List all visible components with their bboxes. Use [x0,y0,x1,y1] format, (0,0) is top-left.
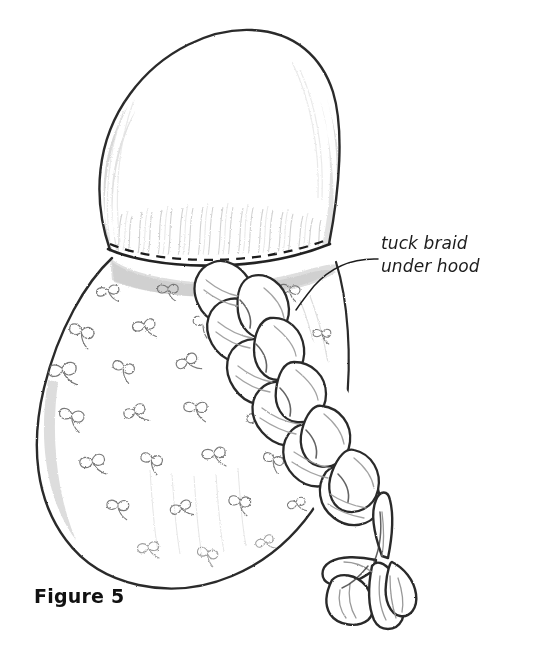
figure-caption: Figure 5 [34,585,124,607]
hood-outline [99,30,339,250]
annotation-line-1: tuck braid [381,232,480,255]
hood-group [99,30,341,266]
cloak-illustration [0,0,545,667]
annotation-line-2: under hood [381,255,480,278]
tuck-braid-annotation: tuck braid under hood [381,232,480,278]
figure-page: tuck braid under hood Figure 5 [0,0,545,667]
